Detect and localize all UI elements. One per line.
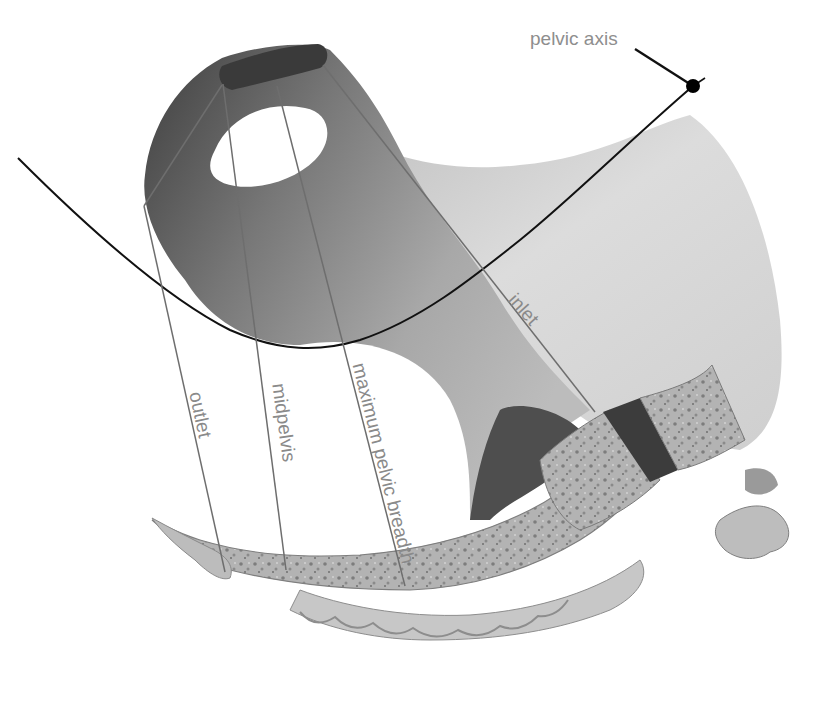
pelvic-axis-label: pelvic axis xyxy=(530,29,618,48)
vertebral-process xyxy=(715,506,788,559)
pelvic-axis-marker xyxy=(686,79,700,93)
pelvic-axis-leader xyxy=(635,49,693,86)
vertebral-process-upper xyxy=(745,468,778,494)
pelvis-diagram xyxy=(0,0,814,701)
